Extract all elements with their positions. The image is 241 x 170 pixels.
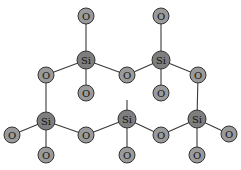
atom-label: Si	[192, 114, 202, 125]
silicon-atom-si2: Si	[152, 51, 170, 69]
oxygen-atom-o9: O	[38, 147, 54, 163]
atom-label: O	[123, 70, 131, 81]
atom-label: O	[82, 88, 90, 99]
atoms-layer: OSiOOOOSiOOSiOOOSiOOSiOO	[4, 8, 237, 163]
oxygen-atom-o2: O	[38, 67, 54, 83]
oxygen-atom-o7: O	[190, 67, 206, 83]
atom-label: Si	[156, 55, 166, 66]
oxygen-atom-o8: O	[4, 127, 20, 143]
atom-label: Si	[122, 114, 132, 125]
atom-label: Si	[81, 55, 91, 66]
oxygen-atom-o6: O	[153, 85, 169, 101]
atom-label: O	[157, 130, 165, 141]
atom-label: O	[157, 11, 165, 22]
atom-label: O	[123, 150, 131, 161]
oxygen-atom-o12: O	[153, 127, 169, 143]
oxygen-atom-o10: O	[78, 127, 94, 143]
oxygen-atom-o1: O	[78, 8, 94, 24]
silicon-atom-si4: Si	[118, 110, 136, 128]
atom-label: O	[157, 88, 165, 99]
oxygen-atom-o5: O	[153, 8, 169, 24]
atom-label: O	[42, 70, 50, 81]
bonds-layer	[12, 16, 229, 155]
atom-label: Si	[41, 116, 51, 127]
silicon-atom-si3: Si	[37, 112, 55, 130]
atom-label: O	[193, 150, 201, 161]
atom-label: O	[225, 129, 233, 140]
oxygen-atom-o11: O	[119, 147, 135, 163]
silicon-atom-si5: Si	[188, 110, 206, 128]
oxygen-atom-o3: O	[78, 85, 94, 101]
oxygen-atom-o14: O	[189, 147, 205, 163]
oxygen-atom-o13: O	[221, 126, 237, 142]
silicon-atom-si1: Si	[77, 51, 95, 69]
atom-label: O	[42, 150, 50, 161]
atom-label: O	[82, 11, 90, 22]
oxygen-atom-o4: O	[119, 67, 135, 83]
silicate-ring-diagram: OSiOOOOSiOOSiOOOSiOOSiOO	[0, 0, 241, 170]
atom-label: O	[82, 130, 90, 141]
atom-label: O	[8, 130, 16, 141]
atom-label: O	[194, 70, 202, 81]
